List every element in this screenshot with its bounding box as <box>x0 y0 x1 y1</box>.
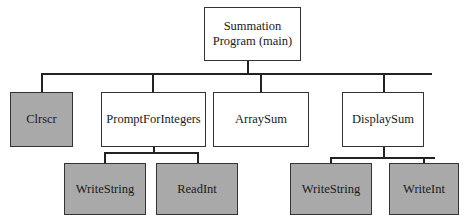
node-label: ArraySum <box>235 112 287 127</box>
connector-to-arraysum <box>260 73 262 92</box>
node-label: PromptForIntegers <box>106 112 200 127</box>
connector-prompt-bus <box>104 152 198 154</box>
root-node-summation-program: Summation Program (main) <box>204 7 301 61</box>
node-writeint: WriteInt <box>389 163 459 215</box>
node-label: WriteInt <box>403 182 445 197</box>
root-label-line1: Summation <box>224 19 282 34</box>
connector-to-prompt <box>152 73 154 92</box>
connector-to-displaysum <box>383 73 385 92</box>
connector-to-writestring-1 <box>104 152 106 163</box>
connector-to-clrscr <box>41 73 43 92</box>
connector-displaysum-bus <box>330 157 435 159</box>
root-label-line2: Program (main) <box>213 34 293 49</box>
node-writestring-display: WriteString <box>290 163 372 215</box>
node-label: ReadInt <box>177 182 217 197</box>
node-writestring-prompt: WriteString <box>64 163 146 215</box>
connector-to-readint <box>197 152 199 163</box>
node-label: WriteString <box>76 182 135 197</box>
node-clrscr: Clrscr <box>10 92 73 147</box>
node-array-sum: ArraySum <box>213 92 309 147</box>
node-label: WriteString <box>302 182 361 197</box>
node-readint: ReadInt <box>156 163 238 215</box>
node-prompt-for-integers: PromptForIntegers <box>101 92 206 147</box>
connector-level1-bus <box>41 73 432 75</box>
node-label: DisplaySum <box>352 112 414 127</box>
node-display-sum: DisplaySum <box>342 92 424 147</box>
node-label: Clrscr <box>26 112 57 127</box>
